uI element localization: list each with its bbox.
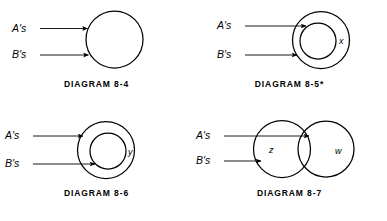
inner-set-circle [300, 23, 336, 59]
input-label-a: A's [196, 129, 210, 141]
input-label-b: B's [5, 157, 19, 169]
region-label-w: w [335, 146, 342, 156]
diagram-caption: DIAGRAM 8-7 [193, 188, 386, 198]
diagram-caption: DIAGRAM 8-4 [0, 79, 193, 89]
diagram-panel-8-4: A's B's DIAGRAM 8-4 [0, 0, 193, 110]
inner-set-circle [90, 133, 126, 169]
diagram-caption: DIAGRAM 8-5* [193, 79, 386, 89]
right-set-circle [298, 121, 354, 177]
diagram-panel-8-6: A's B's y DIAGRAM 8-6 [0, 108, 193, 218]
diagram-panel-8-7: A's B's z w DIAGRAM 8-7 [193, 108, 386, 218]
diagram-8-4-graphic [0, 0, 193, 78]
diagram-panel-8-5: A's B's x DIAGRAM 8-5* [193, 0, 386, 110]
region-label-z: z [269, 145, 274, 155]
diagram-8-5-graphic [193, 0, 386, 78]
diagram-8-7-graphic [193, 108, 386, 188]
left-set-circle [254, 121, 311, 178]
input-label-b: B's [12, 48, 26, 60]
diagram-8-6-graphic [0, 108, 193, 188]
set-circle [86, 11, 143, 68]
region-label-x: x [339, 36, 344, 46]
input-label-b: B's [196, 154, 210, 166]
region-label-y: y [128, 147, 133, 157]
diagram-caption: DIAGRAM 8-6 [0, 188, 193, 198]
input-label-a: A's [5, 129, 19, 141]
figure-page: A's B's DIAGRAM 8-4 A's B's x DIAGRAM 8-… [0, 0, 387, 221]
input-label-a: A's [12, 22, 26, 34]
input-label-a: A's [217, 19, 231, 31]
input-label-b: B's [217, 48, 231, 60]
